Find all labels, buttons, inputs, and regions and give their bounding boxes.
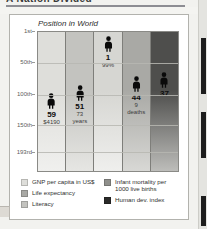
clipped-article-heading: A Nation Divided	[6, 0, 182, 4]
rank-value: 1	[102, 53, 114, 62]
y-axis-tick	[32, 94, 35, 95]
legend-swatch	[104, 197, 111, 204]
scrollbar-thumb-2[interactable]	[201, 112, 206, 158]
legend-label: Life expectancy	[32, 189, 75, 196]
bar-infant-mortality[interactable]: 449deaths	[123, 32, 151, 171]
page-corner-nub	[0, 206, 10, 217]
data-marker-infant-mortality: 449deaths	[127, 76, 145, 116]
metric-unit: years	[72, 118, 87, 125]
scrollbar-thumb-1[interactable]	[201, 38, 206, 94]
chart-legend: GNP per capita in US$Life expectancyLite…	[21, 178, 181, 211]
legend-label: GNP per capita in US$	[32, 178, 94, 185]
header-gap	[0, 7, 207, 14]
scrollbar-thumb-3[interactable]	[201, 196, 206, 226]
gridline	[38, 95, 178, 96]
data-marker-gnp: 59$4190	[43, 93, 60, 126]
bar-life-expectancy[interactable]: 5173years	[66, 32, 94, 171]
rank-value: 59	[43, 110, 60, 119]
page-root: A Nation Divided Position in World 1st50…	[0, 0, 207, 229]
metric-value: 73	[72, 111, 87, 118]
legend-swatch	[21, 201, 28, 208]
metric-unit: deaths	[127, 109, 145, 116]
gridline	[38, 63, 178, 64]
y-axis-tick	[32, 62, 35, 63]
data-marker-life-expectancy: 5173years	[72, 85, 87, 125]
legend-swatch	[21, 190, 28, 197]
legend-item[interactable]: Human dev. index	[104, 196, 181, 204]
legend-swatch	[21, 179, 28, 186]
plot-area: 59$41905173years199%449deaths37	[37, 31, 179, 172]
legend-item[interactable]: Literacy	[21, 200, 98, 208]
y-axis-tick	[32, 152, 35, 153]
legend-item[interactable]: GNP per capita in US$	[21, 178, 98, 186]
rank-value: 51	[72, 102, 87, 111]
chart-title: Position in World	[38, 19, 98, 28]
scrollbar-track[interactable]	[198, 0, 207, 229]
y-axis-tick	[32, 125, 35, 126]
bar-literacy[interactable]: 199%	[94, 32, 122, 171]
legend-label: Infant mortality per 1000 live births	[115, 178, 181, 193]
y-axis: 1st50th100th150th193rd	[10, 31, 35, 172]
y-axis-tick	[32, 31, 35, 32]
y-axis-label: 193rd	[17, 149, 32, 155]
metric-value: 9	[127, 102, 145, 109]
y-axis-label: 150th	[17, 122, 32, 128]
legend-label: Literacy	[32, 200, 54, 207]
chart-figure: Position in World 1st50th100th150th193rd…	[9, 14, 189, 220]
bar-gnp[interactable]: 59$4190	[38, 32, 66, 171]
legend-column-right: Infant mortality per 1000 live birthsHum…	[104, 178, 181, 211]
y-axis-label: 1st	[24, 28, 32, 34]
legend-item[interactable]: Life expectancy	[21, 189, 98, 197]
y-axis-label: 100th	[17, 91, 32, 97]
bar-human-dev-index[interactable]: 37	[151, 32, 178, 171]
plot-frame: 59$41905173years199%449deaths37	[37, 31, 179, 172]
legend-label: Human dev. index	[115, 196, 164, 203]
gridline	[38, 152, 178, 153]
bar-series: 59$41905173years199%449deaths37	[38, 32, 178, 171]
legend-column-left: GNP per capita in US$Life expectancyLite…	[21, 178, 98, 211]
gridline	[38, 125, 178, 126]
legend-item[interactable]: Infant mortality per 1000 live births	[104, 178, 181, 193]
legend-swatch	[104, 179, 111, 186]
y-axis-label: 50th	[20, 59, 32, 65]
data-marker-literacy: 199%	[102, 36, 114, 69]
